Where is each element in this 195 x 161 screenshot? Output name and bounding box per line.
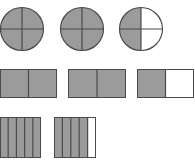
unshaded-part [88, 117, 96, 158]
shaded-part [97, 69, 126, 98]
shaded-part [0, 69, 29, 98]
shaded-part [79, 117, 87, 158]
shaded-part [0, 117, 8, 158]
shaded-part [54, 117, 62, 158]
shaded-part [62, 117, 70, 158]
fraction-models-figure [0, 0, 195, 161]
shaded-part [137, 69, 166, 98]
shaded-part [68, 69, 97, 98]
unshaded-part [166, 69, 195, 98]
shaded-part [25, 117, 33, 158]
shaded-part [29, 69, 58, 98]
shaded-part [33, 117, 41, 158]
shaded-part [8, 117, 16, 158]
shaded-part [16, 117, 24, 158]
shaded-part [71, 117, 79, 158]
